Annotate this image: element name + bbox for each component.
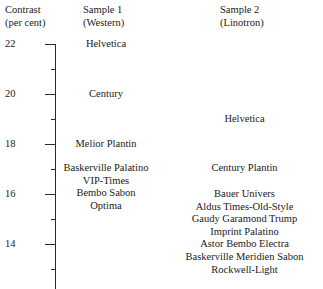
y-axis-label-16: 16	[5, 188, 39, 199]
data-label-sample2-helvetica: Helvetica	[166, 113, 323, 126]
axis-title-line1: Contrast	[5, 3, 46, 16]
data-label-text: Bauer Univers	[166, 188, 323, 201]
column-header-sample2: Sample 2 (Linotron)	[220, 3, 264, 29]
data-label-sample1-century: Century	[46, 88, 166, 101]
data-label-text: Helvetica	[46, 38, 166, 51]
column-header-sample2-line2: (Linotron)	[220, 16, 264, 29]
data-label-text: Optima	[46, 200, 166, 213]
y-axis-label-14: 14	[5, 238, 39, 249]
y-axis-tick-minor-15	[51, 219, 56, 220]
column-header-sample1-line1: Sample 1	[83, 3, 124, 16]
data-label-text: Helvetica	[166, 113, 323, 126]
data-label-text: Astor Bembo Electra	[166, 238, 323, 251]
data-label-sample1-melior-plantin: Melior Plantin	[46, 138, 166, 151]
axis-title-line2: (per cent)	[5, 16, 46, 29]
data-label-text: Rockwell-Light	[166, 264, 323, 277]
column-header-sample2-line1: Sample 2	[220, 3, 264, 16]
data-label-text: Century Plantin	[166, 162, 323, 175]
data-label-text: Aldus Times-Old-Style	[166, 201, 323, 214]
y-axis-tick-minor-21	[51, 69, 56, 70]
y-axis-tick-minor-19	[51, 119, 56, 120]
column-header-sample1: Sample 1 (Western)	[83, 3, 124, 29]
data-label-text: VIP-Times	[46, 175, 166, 188]
data-label-sample1-cluster: Baskerville Palatino VIP-Times Bembo Sab…	[46, 162, 166, 212]
data-label-sample2-century-plantin: Century Plantin	[166, 162, 323, 175]
y-axis-label-18: 18	[5, 138, 39, 149]
data-label-text: Baskerville Palatino	[46, 162, 166, 175]
data-label-sample1-helvetica: Helvetica	[46, 38, 166, 51]
data-label-sample2-cluster: Bauer Univers Aldus Times-Old-Style Gaud…	[166, 188, 323, 276]
data-label-text: Century	[46, 88, 166, 101]
data-label-text: Melior Plantin	[46, 138, 166, 151]
y-axis-tick-minor-13	[51, 269, 56, 270]
y-axis-label-20: 20	[5, 88, 39, 99]
contrast-chart: Contrast (per cent) Sample 1 (Western) S…	[0, 0, 323, 289]
data-label-text: Imprint Palatino	[166, 226, 323, 239]
y-axis-label-22: 22	[5, 38, 39, 49]
column-header-sample1-line2: (Western)	[83, 16, 124, 29]
axis-title-contrast: Contrast (per cent)	[5, 3, 46, 29]
data-label-text: Gaudy Garamond Trump	[166, 213, 323, 226]
data-label-text: Baskerville Meridien Sabon	[166, 251, 323, 264]
y-axis-tick-major-14	[45, 244, 56, 245]
data-label-text: Bembo Sabon	[46, 187, 166, 200]
